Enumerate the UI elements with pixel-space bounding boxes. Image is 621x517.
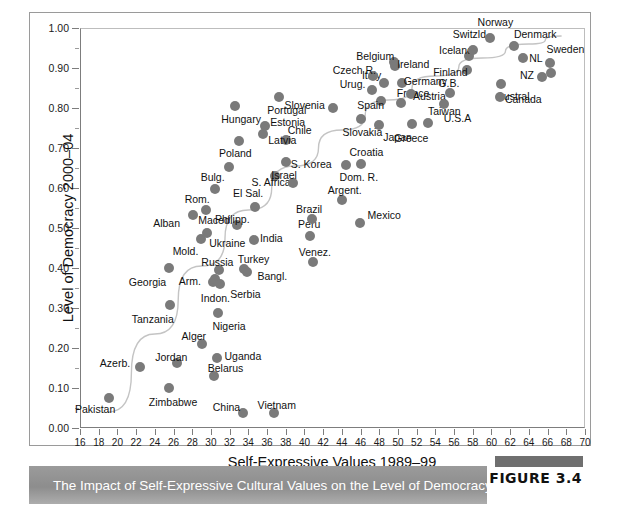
data-point xyxy=(445,88,455,98)
x-tick-label: 32 xyxy=(224,437,235,448)
data-point-label: India xyxy=(260,233,283,244)
data-point-label: Nigeria xyxy=(212,321,245,332)
data-point xyxy=(307,214,317,224)
x-tick-label: 60 xyxy=(486,437,497,448)
data-point-label: NL xyxy=(529,53,542,64)
data-point-label: Croatia xyxy=(349,147,383,158)
data-point-label: S. Korea xyxy=(291,159,332,170)
x-tick xyxy=(267,429,268,435)
data-point xyxy=(230,101,240,111)
x-tick-label: 54 xyxy=(430,437,441,448)
x-tick-label: 66 xyxy=(542,437,553,448)
data-point-label: Azerb. xyxy=(100,358,130,369)
x-tick xyxy=(286,429,287,435)
y-tick-label: 0.10 xyxy=(49,382,69,394)
x-tick-label: 24 xyxy=(149,437,160,448)
x-tick-label: 52 xyxy=(411,437,422,448)
data-point-label: Denmark xyxy=(514,29,557,40)
data-point xyxy=(188,210,198,220)
data-point xyxy=(250,202,260,212)
x-tick xyxy=(361,429,362,435)
y-tick-label: 1.00 xyxy=(49,22,69,34)
data-point-label: Dom. R. xyxy=(340,172,379,183)
data-point-label: Israel xyxy=(271,170,297,181)
data-point-label: Hungary xyxy=(221,114,261,125)
figure-number: FIGURE 3.4 xyxy=(489,470,582,486)
data-point xyxy=(213,308,223,318)
x-tick-label: 18 xyxy=(93,437,104,448)
data-point xyxy=(274,92,284,102)
x-tick xyxy=(136,429,137,435)
x-tick-label: 64 xyxy=(523,437,534,448)
data-point xyxy=(308,257,318,267)
data-point xyxy=(468,45,478,55)
x-tick-label: 48 xyxy=(374,437,385,448)
data-point xyxy=(518,53,528,63)
data-point xyxy=(496,79,506,89)
data-point-label: Uganda xyxy=(224,351,261,362)
data-point xyxy=(215,279,225,289)
x-tick-label: 46 xyxy=(355,437,366,448)
data-point-label: Russia xyxy=(201,257,233,268)
x-tick xyxy=(510,429,511,435)
x-tick xyxy=(117,429,118,435)
data-point-label: Pakistan xyxy=(75,404,115,415)
x-tick-label: 58 xyxy=(467,437,478,448)
y-tick xyxy=(72,428,79,429)
x-tick xyxy=(491,429,492,435)
data-point-label: Spain xyxy=(357,100,384,111)
x-tick xyxy=(99,429,100,435)
y-tick xyxy=(72,68,79,69)
data-point xyxy=(546,68,556,78)
caption-bar: The Impact of Self-Expressive Cultural V… xyxy=(29,466,591,504)
x-tick-label: 42 xyxy=(318,437,329,448)
figure-number-block: FIGURE 3.4 xyxy=(487,456,591,504)
x-tick-label: 50 xyxy=(392,437,403,448)
x-tick xyxy=(304,429,305,435)
data-point-label: Switzld. xyxy=(453,29,489,40)
data-point xyxy=(104,393,114,403)
x-tick-label: 28 xyxy=(187,437,198,448)
data-point-label: Canada xyxy=(505,94,542,105)
data-point xyxy=(545,58,555,68)
x-tick-label: 34 xyxy=(243,437,254,448)
data-point-label: Norway xyxy=(478,17,514,28)
y-tick-minor xyxy=(75,368,79,369)
figure-root: 0.000.100.200.300.400.500.600.700.800.90… xyxy=(0,0,621,517)
x-tick xyxy=(174,429,175,435)
x-tick-label: 26 xyxy=(168,437,179,448)
x-tick-label: 62 xyxy=(505,437,516,448)
y-tick xyxy=(72,348,79,349)
data-point xyxy=(396,98,406,108)
data-point xyxy=(367,85,377,95)
x-tick xyxy=(548,429,549,435)
data-point xyxy=(260,121,270,131)
x-tick-label: 38 xyxy=(280,437,291,448)
data-point xyxy=(135,362,145,372)
data-point-label: Mexico xyxy=(368,210,401,221)
data-point xyxy=(509,41,519,51)
data-point-label: Bangl. xyxy=(257,271,287,282)
data-point xyxy=(212,353,222,363)
data-point-label: Vietnam xyxy=(258,400,296,411)
data-point-label: Venez. xyxy=(299,247,331,258)
x-tick xyxy=(435,429,436,435)
data-point-label: Bulg. xyxy=(201,172,225,183)
data-point-label: Philipp. xyxy=(215,214,249,225)
x-tick xyxy=(585,429,586,435)
data-point-label: Rom. xyxy=(185,194,210,205)
data-point-label: Jordan xyxy=(155,352,187,363)
data-point-label: China xyxy=(213,402,240,413)
data-point xyxy=(164,383,174,393)
x-tick-label: 44 xyxy=(336,437,347,448)
x-tick xyxy=(230,429,231,435)
data-point-label: Sweden xyxy=(546,44,584,55)
data-point-label: Latvia xyxy=(268,135,296,146)
x-tick xyxy=(473,429,474,435)
x-tick xyxy=(454,429,455,435)
x-tick xyxy=(80,429,81,435)
x-tick xyxy=(155,429,156,435)
data-point-label: Georgia xyxy=(129,277,166,288)
data-point-label: Argent. xyxy=(328,185,362,196)
x-tick xyxy=(192,429,193,435)
